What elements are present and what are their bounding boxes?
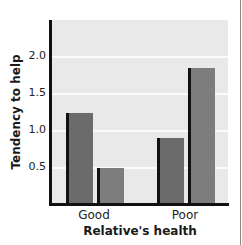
category-label-good: Good — [78, 208, 110, 222]
bar-good-series-2 — [97, 168, 124, 205]
y-tick-label: 1.5 — [24, 87, 46, 99]
gridline — [51, 56, 228, 58]
y-tick-label: 2.0 — [24, 50, 46, 62]
bar-poor-series-1 — [157, 138, 184, 205]
page-edge-rule — [240, 0, 241, 245]
y-tick-label: 1.0 — [24, 124, 46, 136]
x-axis-line — [49, 203, 229, 206]
y-axis-title: Tendency to help — [9, 54, 23, 169]
x-axis-title: Relative's health — [83, 224, 197, 238]
bar-poor-series-2 — [188, 68, 215, 205]
y-axis-line — [49, 20, 52, 206]
category-label-poor: Poor — [172, 208, 198, 222]
y-tick-label: 0.5 — [24, 161, 46, 173]
bar-good-series-1 — [66, 113, 93, 205]
